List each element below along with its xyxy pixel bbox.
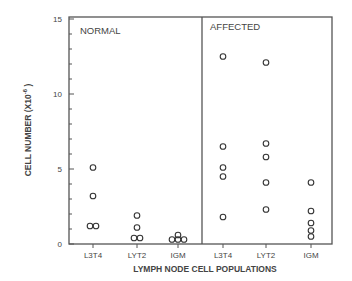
data-point	[131, 235, 137, 241]
y-axis-title: CELL NUMBER (X10-6 )	[22, 84, 33, 177]
x-tick-label: IGM	[303, 251, 318, 260]
data-point	[93, 223, 99, 229]
data-points	[87, 54, 314, 243]
data-point	[308, 180, 314, 186]
data-point	[220, 174, 226, 180]
y-tick-label: 0	[58, 240, 63, 249]
data-point	[263, 180, 269, 186]
y-axis-tick-labels: 051015	[53, 15, 62, 249]
data-point	[169, 237, 175, 243]
data-point	[220, 144, 226, 150]
data-point	[134, 213, 140, 219]
data-point	[308, 234, 314, 240]
x-tick-label: L3T4	[84, 251, 103, 260]
y-axis-ticks	[69, 19, 74, 244]
data-point	[90, 165, 96, 171]
data-point	[137, 235, 143, 241]
plot-frame	[69, 17, 332, 244]
y-tick-label: 5	[58, 165, 63, 174]
data-point	[263, 154, 269, 160]
data-point	[308, 220, 314, 226]
data-point	[87, 223, 93, 229]
panel-label-affected: AFFECTED	[210, 21, 260, 32]
data-point	[263, 141, 269, 147]
x-tick-label: LYT2	[128, 251, 147, 260]
data-point	[220, 165, 226, 171]
data-point	[308, 228, 314, 234]
data-point	[220, 214, 226, 220]
data-point	[90, 193, 96, 199]
x-axis-ticks: L3T4LYT2IGML3T4LYT2IGM	[84, 244, 319, 260]
x-tick-label: L3T4	[214, 251, 233, 260]
x-axis-title: LYMPH NODE CELL POPULATIONS	[133, 264, 277, 274]
data-point	[181, 237, 187, 243]
data-point	[263, 207, 269, 213]
y-tick-label: 15	[53, 15, 62, 24]
data-point	[134, 225, 140, 231]
data-point	[263, 60, 269, 66]
x-tick-label: IGM	[170, 251, 185, 260]
data-point	[308, 208, 314, 214]
scatter-chart: 051015 L3T4LYT2IGML3T4LYT2IGM NORMAL AFF…	[0, 0, 352, 281]
x-tick-label: LYT2	[257, 251, 276, 260]
y-tick-label: 10	[53, 90, 62, 99]
panel-label-normal: NORMAL	[80, 25, 121, 36]
data-point	[220, 54, 226, 60]
